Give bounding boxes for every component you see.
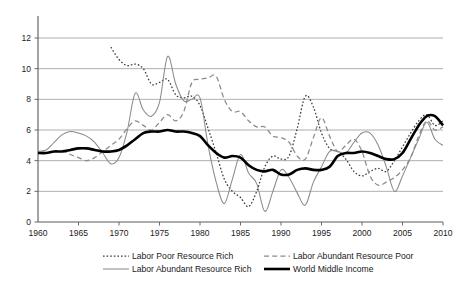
- line-chart: 024681012 196019651970197519801985199019…: [0, 0, 459, 286]
- x-tick-label-1985: 1985: [231, 228, 250, 238]
- y-tick-label-10: 10: [22, 64, 32, 74]
- x-tick-label-1965: 1965: [69, 228, 88, 238]
- y-tick-label-4: 4: [26, 156, 31, 166]
- x-tick-label-1980: 1980: [191, 228, 210, 238]
- x-tick-label-2000: 2000: [353, 228, 372, 238]
- y-tick-label-6: 6: [26, 125, 31, 135]
- x-tick-label-1995: 1995: [312, 228, 331, 238]
- y-tick-label-2: 2: [26, 186, 31, 196]
- gridlines: [38, 38, 443, 191]
- legend-label-text: Labor Poor Resource Rich: [132, 251, 233, 261]
- chart-legend: Labor Poor Resource RichLabor Abundant R…: [103, 251, 414, 274]
- y-axis-tick-labels: 024681012: [22, 33, 32, 227]
- chart-container: 024681012 196019651970197519801985199019…: [0, 0, 459, 286]
- x-axis-tick-labels: 1960196519701975198019851990199520002005…: [29, 228, 453, 238]
- legend-label-text: World Middle Income: [293, 264, 374, 274]
- series-line-world-middle-income: [38, 115, 443, 175]
- legend-item-labor-poor-resource-rich[interactable]: Labor Poor Resource Rich: [103, 251, 233, 261]
- series-line-labor-poor-resource-rich: [111, 47, 443, 207]
- legend-item-world-middle-income[interactable]: World Middle Income: [264, 264, 374, 274]
- x-tick-label-2010: 2010: [434, 228, 453, 238]
- x-tick-label-1975: 1975: [150, 228, 169, 238]
- legend-item-labor-abundant-resource-rich[interactable]: Labor Abundant Resource Rich: [103, 264, 252, 274]
- series-lines: [38, 47, 443, 211]
- x-tick-label-2005: 2005: [393, 228, 412, 238]
- x-tick-label-1990: 1990: [272, 228, 291, 238]
- y-tick-label-8: 8: [26, 94, 31, 104]
- y-tick-label-12: 12: [22, 33, 32, 43]
- series-line-labor-abundant-resource-rich: [38, 56, 443, 211]
- legend-label-text: Labor Abundant Resource Rich: [132, 264, 252, 274]
- legend-label-text: Labor Abundant Resource Poor: [293, 251, 414, 261]
- legend-item-labor-abundant-resource-poor[interactable]: Labor Abundant Resource Poor: [264, 251, 414, 261]
- y-tick-label-0: 0: [26, 217, 31, 227]
- x-tick-label-1970: 1970: [110, 228, 129, 238]
- x-tick-label-1960: 1960: [29, 228, 48, 238]
